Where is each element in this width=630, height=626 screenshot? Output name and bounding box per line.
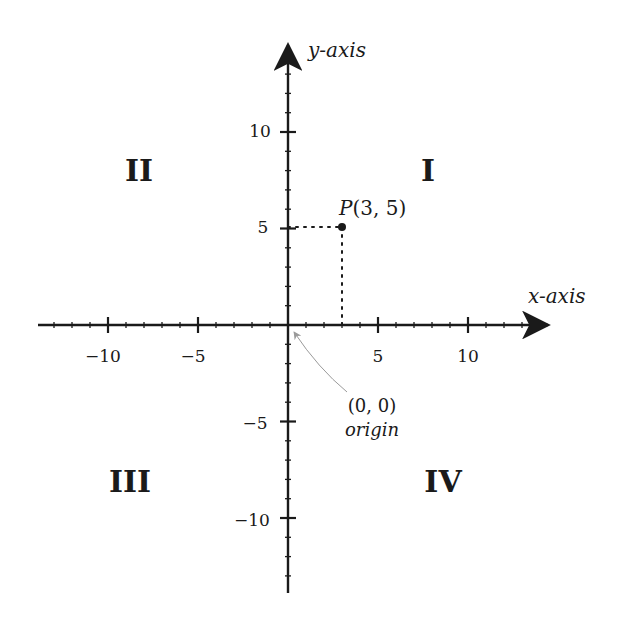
y-tick-label: 10: [249, 121, 271, 141]
x-tick-label: 5: [373, 346, 384, 366]
y-tick-label: 5: [258, 217, 269, 237]
x-tick-label: 10: [457, 346, 479, 366]
point-guide-lines: [288, 227, 342, 325]
point-name: P: [339, 196, 352, 220]
y-tick-label: −10: [234, 510, 270, 530]
quadrant-label-ii: II: [125, 153, 153, 188]
quadrant-label-iii: III: [109, 464, 151, 499]
point-coords: (3, 5): [352, 196, 406, 220]
coordinate-plane-diagram: y-axis x-axis −10 −5 5 10 10 5 −5 −10 I …: [0, 0, 630, 626]
x-tick-label: −5: [180, 346, 205, 366]
y-axis-label: y-axis: [308, 38, 366, 62]
x-tick-label: −10: [85, 346, 121, 366]
point-p-marker: [338, 223, 346, 231]
point-p-label: P(3, 5): [339, 196, 406, 220]
quadrant-label-i: I: [421, 153, 435, 188]
origin-label: (0, 0) origin: [345, 394, 399, 442]
axes-graphic: [0, 0, 630, 626]
quadrant-label-iv: IV: [424, 464, 461, 499]
origin-annotation-arrow: [294, 332, 347, 392]
y-tick-label: −5: [242, 413, 267, 433]
x-axis-label: x-axis: [528, 284, 586, 308]
origin-coords: (0, 0): [345, 394, 399, 418]
origin-name: origin: [345, 418, 399, 442]
